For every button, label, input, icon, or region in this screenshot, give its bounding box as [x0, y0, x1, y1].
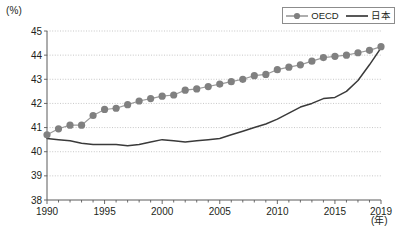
data-point-oecd	[239, 76, 246, 83]
legend-item-oecd: OECD	[286, 11, 338, 21]
data-point-oecd	[55, 125, 62, 132]
x-tick-label: 1990	[36, 206, 59, 217]
y-tick-label: 42	[31, 98, 43, 109]
data-point-oecd	[66, 122, 73, 129]
data-point-oecd	[343, 52, 350, 59]
chart-container: (%) (年) 3839404142434445 199019952000200…	[0, 0, 406, 233]
series-line-japan	[47, 48, 381, 146]
data-point-oecd	[285, 64, 292, 71]
y-tick-label: 45	[31, 26, 43, 37]
x-tick-label: 2015	[324, 206, 347, 217]
y-tick-label: 39	[31, 170, 43, 181]
data-point-oecd	[78, 122, 85, 129]
data-point-oecd	[101, 106, 108, 113]
data-point-oecd	[216, 81, 223, 88]
data-point-oecd	[193, 85, 200, 92]
data-point-oecd	[354, 49, 361, 56]
legend-item-japan: 日本	[346, 11, 391, 21]
data-point-oecd	[43, 131, 50, 138]
data-point-oecd	[136, 97, 143, 104]
data-point-oecd	[228, 78, 235, 85]
legend-label-japan: 日本	[371, 11, 391, 21]
series-japan-group	[47, 48, 381, 146]
data-point-oecd	[113, 105, 120, 112]
y-tick-labels-group: 3839404142434445	[31, 26, 43, 206]
x-tick-marks-group	[47, 200, 381, 204]
data-point-oecd	[320, 54, 327, 61]
series-oecd-group	[43, 43, 384, 138]
data-point-oecd	[205, 83, 212, 90]
data-point-oecd	[331, 53, 338, 60]
x-tick-label: 1995	[93, 206, 116, 217]
gridlines-group	[47, 31, 381, 176]
legend-line-icon	[346, 11, 368, 21]
x-tick-label: 2019	[370, 206, 393, 217]
y-tick-label: 38	[31, 195, 43, 206]
data-point-oecd	[147, 95, 154, 102]
data-point-oecd	[274, 66, 281, 73]
x-tick-label: 2000	[151, 206, 174, 217]
x-tick-label: 2005	[209, 206, 232, 217]
legend-label-oecd: OECD	[311, 11, 338, 21]
data-point-oecd	[251, 72, 258, 79]
data-point-oecd	[124, 101, 131, 108]
data-point-oecd	[170, 91, 177, 98]
data-point-oecd	[159, 93, 166, 100]
data-point-oecd	[377, 43, 384, 50]
y-tick-label: 43	[31, 74, 43, 85]
series-line-oecd	[47, 47, 381, 135]
data-point-oecd	[182, 87, 189, 94]
chart-plot: 3839404142434445 19901995200020052010201…	[0, 0, 406, 233]
y-tick-label: 40	[31, 146, 43, 157]
data-point-oecd	[262, 71, 269, 78]
data-point-oecd	[366, 47, 373, 54]
legend-marker-line-icon	[286, 11, 308, 21]
x-tick-label: 2010	[266, 206, 289, 217]
x-tick-labels-group: 1990199520002005201020152019	[36, 206, 393, 217]
y-tick-label: 44	[31, 50, 43, 61]
legend: OECD 日本	[282, 7, 395, 24]
data-point-oecd	[297, 61, 304, 68]
data-point-oecd	[89, 112, 96, 119]
data-point-oecd	[308, 58, 315, 65]
y-tick-label: 41	[31, 122, 43, 133]
